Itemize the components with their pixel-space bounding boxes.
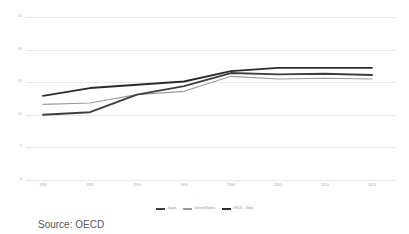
legend-swatch-icon bbox=[156, 208, 165, 210]
y-tick-label: 25 bbox=[18, 15, 22, 18]
x-tick-label: 2015 bbox=[368, 184, 376, 187]
x-tick-label: 1990 bbox=[133, 184, 141, 187]
line-chart: 25 20 15 10 5 0 1980 1985 1990 1995 2000… bbox=[0, 0, 409, 200]
y-axis: 25 20 15 10 5 0 bbox=[0, 17, 24, 180]
y-tick-label: 0 bbox=[20, 178, 22, 181]
x-tick-label: 2010 bbox=[321, 184, 329, 187]
source-caption: Source: OECD bbox=[38, 219, 104, 231]
chart-legend: Japan United States OECD - Total bbox=[0, 203, 409, 215]
x-tick-label: 1985 bbox=[86, 184, 94, 187]
x-tick-label: 2005 bbox=[274, 184, 282, 187]
legend-swatch-icon bbox=[222, 208, 231, 210]
legend-label: United States bbox=[194, 207, 214, 210]
y-tick-label: 10 bbox=[18, 113, 22, 116]
y-tick-label: 20 bbox=[18, 48, 22, 51]
legend-item-japan: Japan bbox=[156, 207, 176, 210]
y-tick-label: 15 bbox=[18, 80, 22, 83]
legend-item-oecd-total: OECD - Total bbox=[222, 207, 253, 210]
x-tick-label: 1980 bbox=[39, 184, 47, 187]
series-line-oecd-total bbox=[43, 68, 372, 96]
series-line-japan bbox=[43, 73, 372, 115]
legend-swatch-icon bbox=[183, 208, 192, 209]
chart-screenshot: 25 20 15 10 5 0 1980 1985 1990 1995 2000… bbox=[0, 0, 409, 234]
x-axis: 1980 1985 1990 1995 2000 2005 2010 2015 bbox=[26, 180, 396, 194]
legend-label: OECD - Total bbox=[233, 207, 253, 210]
x-tick-label: 2000 bbox=[227, 184, 235, 187]
x-tick-label: 1995 bbox=[180, 184, 188, 187]
legend-item-united-states: United States bbox=[183, 207, 214, 210]
y-tick-label: 5 bbox=[20, 146, 22, 149]
series-lines bbox=[26, 17, 396, 180]
legend-label: Japan bbox=[167, 207, 176, 210]
